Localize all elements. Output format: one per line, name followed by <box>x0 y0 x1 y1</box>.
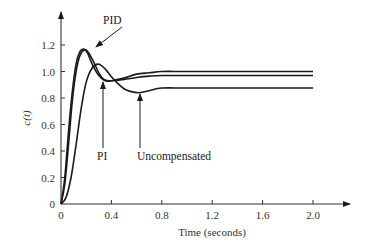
x-tick-label: 0.8 <box>155 209 169 221</box>
x-tick-label: 2.0 <box>306 209 320 221</box>
y-tick-label: 1.2 <box>41 39 55 51</box>
x-tick-label: 0.4 <box>105 209 119 221</box>
annotation-pid: PID <box>103 14 122 26</box>
y-axis-label: c(t) <box>20 110 33 126</box>
y-tick-label: 0 <box>50 198 56 210</box>
curve-pi <box>61 50 313 204</box>
y-tick-label: 0.4 <box>41 145 55 157</box>
curve-uncompensated <box>61 64 313 204</box>
annotation-uncompensated: Uncompensated <box>137 150 211 163</box>
x-tick-label: 1.2 <box>205 209 219 221</box>
y-tick-label: 0.8 <box>41 92 55 104</box>
x-tick-label: 1.6 <box>256 209 270 221</box>
pid-arrow <box>96 27 122 47</box>
y-tick-label: 1.0 <box>41 66 55 78</box>
y-tick-label: 0.6 <box>41 119 55 131</box>
step-response-chart: 00.40.81.21.62.000.20.40.60.81.01.2 PIDP… <box>0 0 377 249</box>
axes: 00.40.81.21.62.000.20.40.60.81.01.2 <box>41 12 350 221</box>
x-axis-label: Time (seconds) <box>178 226 246 239</box>
x-tick-label: 0 <box>58 209 64 221</box>
y-tick-label: 0.2 <box>41 172 55 184</box>
annotation-pi: PI <box>97 150 107 162</box>
curves <box>61 49 313 204</box>
